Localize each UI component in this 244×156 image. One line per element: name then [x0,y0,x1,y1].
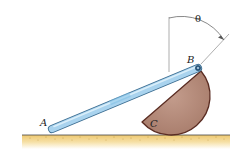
ground-fill [22,135,230,149]
label-b: B [186,54,194,65]
label-c: C [150,118,158,129]
rotated-reference-line [201,34,229,64]
label-a: A [39,117,47,128]
diagram-canvas: θ C A B [0,0,244,156]
ground [22,135,230,149]
theta-label: θ [195,13,201,24]
theta-arrowhead [218,36,224,41]
pin-b-center [197,67,199,69]
angle-annotation: θ [169,13,229,72]
